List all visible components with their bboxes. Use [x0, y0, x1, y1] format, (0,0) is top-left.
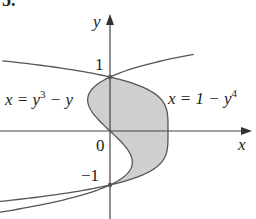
x-axis-arrow-icon: [241, 127, 252, 135]
origin-label: 0: [96, 136, 105, 155]
left-curve-label: x = y3 − y: [4, 88, 74, 109]
y-axis-label: y: [91, 12, 101, 31]
intersection-point-top: [108, 75, 112, 79]
intersection-point-bottom: [108, 183, 112, 187]
y-axis-arrow-icon: [106, 14, 114, 25]
x-axis-label: x: [237, 135, 246, 154]
tick-label-1: 1: [95, 55, 104, 74]
right-curve-label: x = 1 − y4: [167, 87, 238, 108]
problem-number: 5.: [2, 0, 16, 10]
diagram: 5. y x 1 0 −1 x = y3 − y x = 1 − y4: [0, 0, 256, 219]
tick-label-neg-1: −1: [81, 166, 99, 185]
